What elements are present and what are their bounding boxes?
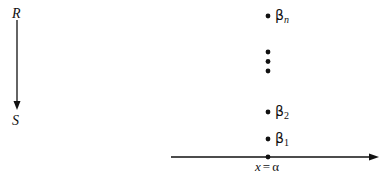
label-beta-2: β2: [275, 104, 289, 121]
label-x-equals-alpha: x=α: [255, 160, 279, 173]
point-beta-n: [266, 14, 271, 19]
diagram-canvas: [0, 0, 383, 180]
label-s: S: [12, 114, 19, 128]
x-axis-arrowhead-icon: [369, 154, 379, 161]
label-beta-1: β1: [275, 131, 289, 148]
r-to-s-arrowhead-icon: [14, 101, 21, 110]
label-r: R: [12, 7, 21, 21]
label-beta-n: βn: [275, 8, 289, 25]
point-beta-2: [266, 110, 271, 115]
ellipsis-dot: [266, 59, 271, 64]
ellipsis-dot: [266, 69, 271, 74]
point-beta-1: [266, 137, 271, 142]
ellipsis-dot: [266, 50, 271, 55]
